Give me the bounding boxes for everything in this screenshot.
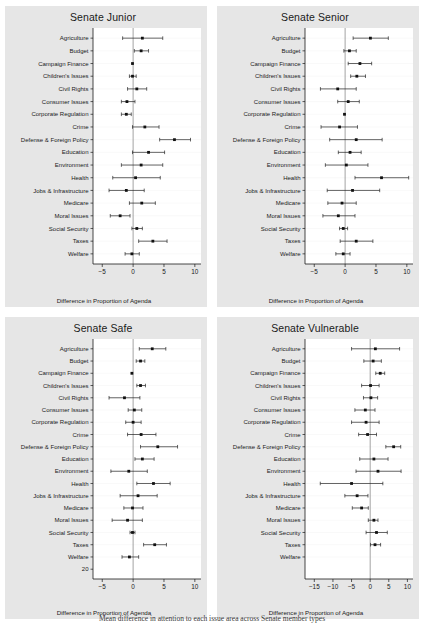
x-axis-label: Difference in Proportion of Agenda: [217, 297, 415, 304]
x-tick-label: −10: [328, 583, 339, 590]
category-label: Corporate Regulation: [31, 419, 88, 425]
category-label: Environment: [267, 468, 301, 474]
category-label: Civil Rights: [58, 86, 88, 92]
category-label: Jobs & Infrastructure: [245, 493, 301, 499]
x-tick-label: 5: [387, 583, 391, 590]
x-tick-label: −5: [348, 583, 356, 590]
point-estimate-marker: [139, 360, 142, 363]
category-label: Defense & Foreign Policy: [21, 137, 89, 143]
x-tick-label: 10: [403, 268, 411, 275]
category-label: Defense & Foreign Policy: [21, 444, 89, 450]
point-estimate-marker: [350, 482, 353, 485]
category-label: Welfare: [280, 554, 301, 560]
category-label: Crime: [285, 124, 302, 130]
x-tick-label: −5: [99, 583, 107, 590]
category-label: Corporate Regulation: [243, 111, 300, 117]
category-label: Environment: [55, 162, 89, 168]
x-tick-label: 10: [191, 583, 199, 590]
category-label: Social Security: [261, 226, 301, 232]
point-estimate-marker: [372, 519, 375, 522]
point-estimate-marker: [379, 372, 382, 375]
category-label: Crime: [285, 432, 302, 438]
category-label: Corporate Regulation: [31, 111, 88, 117]
point-estimate-marker: [336, 88, 339, 91]
estimate-row: [343, 113, 346, 116]
category-label: Budget: [281, 48, 300, 54]
category-label: Health: [71, 481, 88, 487]
point-estimate-marker: [356, 494, 359, 497]
estimate-row: [130, 372, 133, 375]
point-estimate-marker: [153, 543, 156, 546]
category-label: Moral Issues: [54, 517, 88, 523]
category-label: Education: [274, 456, 301, 462]
point-estimate-marker: [131, 75, 134, 78]
point-estimate-marker: [392, 445, 395, 448]
point-estimate-marker: [338, 126, 341, 129]
category-label: Budget: [69, 48, 88, 54]
category-label: Children's Issues: [43, 73, 89, 79]
panel-senate-safe: Senate Safe AgricultureBudgetCampaign Fi…: [5, 317, 207, 619]
x-tick-label: 10: [191, 268, 199, 275]
point-estimate-marker: [151, 347, 154, 350]
point-estimate-marker: [372, 360, 375, 363]
category-label: Medicare: [64, 200, 89, 206]
point-estimate-marker: [119, 214, 122, 217]
point-estimate-marker: [355, 138, 358, 141]
category-label: Medicare: [64, 505, 89, 511]
category-label: Taxes: [285, 542, 301, 548]
panel-senate-vulnerable: Senate Vulnerable AgricultureBudgetCampa…: [217, 317, 419, 619]
x-tick-label: −15: [309, 583, 320, 590]
category-label: Campaign Finance: [250, 370, 301, 376]
category-label: Budget: [69, 358, 88, 364]
point-estimate-marker: [152, 482, 155, 485]
category-label: Campaign Finance: [250, 61, 301, 67]
x-tick-label: 0: [131, 583, 135, 590]
point-estimate-marker: [133, 409, 136, 412]
point-estimate-marker: [374, 347, 377, 350]
point-estimate-marker: [365, 421, 368, 424]
category-label: Consumer Issues: [42, 407, 89, 413]
point-estimate-marker: [135, 227, 138, 230]
point-estimate-marker: [173, 138, 176, 141]
category-label: Campaign Finance: [38, 370, 89, 376]
category-label: Consumer Issues: [42, 99, 89, 105]
point-estimate-marker: [380, 176, 383, 179]
point-estimate-marker: [143, 126, 146, 129]
point-estimate-marker: [342, 252, 345, 255]
plot-senate-vulnerable: AgricultureBudgetCampaign FinanceChildre…: [217, 317, 419, 619]
point-estimate-marker: [135, 88, 138, 91]
category-label: Moral Issues: [266, 213, 300, 219]
point-estimate-marker: [134, 176, 137, 179]
plot-senate-junior: AgricultureBudgetCampaign FinanceChildre…: [5, 6, 207, 307]
point-estimate-marker: [345, 164, 348, 167]
point-estimate-marker: [343, 113, 346, 116]
point-estimate-marker: [341, 202, 344, 205]
category-label: Defense & Foreign Policy: [233, 444, 301, 450]
point-estimate-marker: [131, 62, 134, 65]
category-label: Education: [62, 149, 89, 155]
point-estimate-marker: [140, 202, 143, 205]
category-label: Agriculture: [60, 35, 89, 41]
category-label: Corporate Regulation: [243, 419, 300, 425]
category-label: Jobs & Infrastructure: [33, 493, 89, 499]
point-estimate-marker: [131, 507, 134, 510]
x-tick-label: 0: [368, 583, 372, 590]
category-label: Taxes: [285, 238, 301, 244]
category-label: Children's Issues: [43, 383, 89, 389]
point-estimate-marker: [140, 49, 143, 52]
panel-senate-junior: Senate Junior AgricultureBudgetCampaign …: [5, 6, 207, 307]
figure-caption: Mean difference in attention to each iss…: [0, 614, 424, 623]
point-estimate-marker: [127, 470, 130, 473]
point-estimate-marker: [140, 164, 143, 167]
category-label: Taxes: [73, 542, 89, 548]
point-estimate-marker: [125, 113, 128, 116]
point-estimate-marker: [375, 531, 378, 534]
category-label: Environment: [267, 162, 301, 168]
point-estimate-marker: [131, 531, 134, 534]
point-estimate-marker: [128, 556, 131, 559]
point-estimate-marker: [370, 396, 373, 399]
category-label: Health: [283, 481, 300, 487]
category-label: Campaign Finance: [38, 61, 89, 67]
point-estimate-marker: [130, 372, 133, 375]
x-tick-label: 0: [131, 268, 135, 275]
